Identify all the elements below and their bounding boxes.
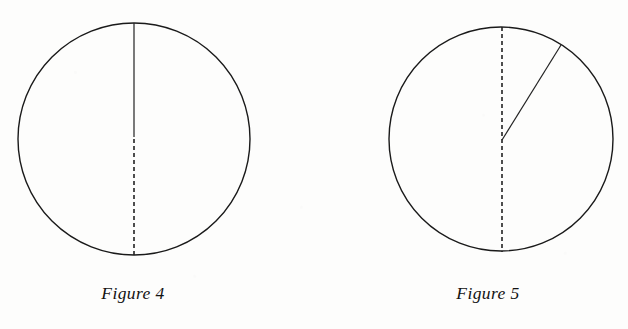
figure-5-caption: Figure 5: [456, 283, 519, 304]
figure-5-slanted-radius-solid-line: [502, 45, 561, 140]
figure-4-diagram: [18, 23, 250, 255]
figure-4-caption: Figure 4: [101, 283, 164, 304]
figure-5-diagram: [389, 27, 613, 252]
figure-sheet: Figure 4 Figure 5: [0, 0, 628, 329]
figure-5-circle: [389, 27, 613, 251]
figures-drawing-canvas: [0, 0, 628, 329]
